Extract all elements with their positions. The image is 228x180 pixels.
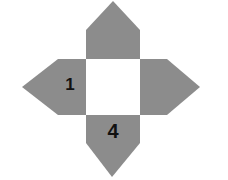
top-arm (86, 1, 140, 59)
left-arm (22, 59, 86, 115)
left-arm-label: 1 (65, 75, 74, 94)
right-arm (140, 59, 200, 115)
net-diagram: 1 4 (0, 0, 228, 180)
bottom-arm-label: 4 (107, 120, 119, 142)
center-square (86, 59, 140, 115)
